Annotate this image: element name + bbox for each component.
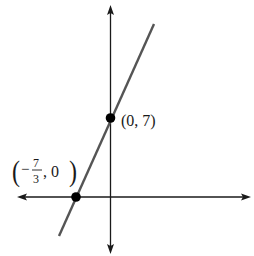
x-intercept-label: ( − 7 3 , 0 )	[12, 155, 77, 188]
y-intercept-label: (0, 7)	[121, 112, 156, 130]
x-intercept-open-paren: (	[12, 155, 20, 188]
x-intercept-point	[71, 192, 81, 202]
graph-canvas: (0, 7) ( − 7 3 , 0 )	[0, 0, 254, 256]
y-axis	[107, 5, 114, 254]
x-intercept-close-paren: )	[69, 155, 77, 188]
x-intercept-minus: −	[21, 161, 29, 177]
plotted-line	[59, 24, 154, 236]
x-axis	[17, 194, 251, 201]
x-intercept-rest: , 0	[43, 163, 59, 180]
x-intercept-numerator: 7	[33, 156, 39, 170]
y-intercept-point	[106, 113, 116, 123]
x-intercept-denominator: 3	[33, 172, 39, 186]
